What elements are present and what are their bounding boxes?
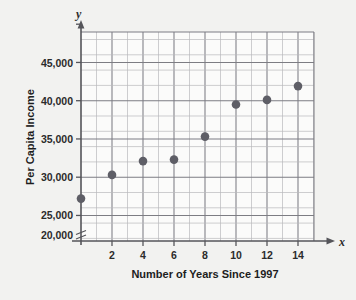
y-axis-symbol: y xyxy=(74,7,82,21)
y-tick-labels: 45,000 40,000 35,000 30,000 25,000 20,00… xyxy=(41,57,73,241)
data-point xyxy=(108,171,117,180)
y-tick-label: 30,000 xyxy=(41,171,73,183)
x-tick-label: 4 xyxy=(140,249,146,261)
x-axis-symbol: x xyxy=(338,235,345,249)
y-tick-label: 45,000 xyxy=(41,57,73,69)
y-tick-label: 40,000 xyxy=(41,95,73,107)
data-point xyxy=(170,155,179,164)
x-tick-label: 10 xyxy=(230,249,242,261)
data-point xyxy=(77,194,86,203)
data-point xyxy=(139,157,148,166)
x-tick-label: 2 xyxy=(109,249,115,261)
plot-area-background xyxy=(81,32,314,241)
data-point xyxy=(232,100,241,109)
x-tick-label: 8 xyxy=(202,249,208,261)
y-tick-label: 25,000 xyxy=(41,209,73,221)
x-axis-title: Number of Years Since 1997 xyxy=(131,268,278,280)
chart-canvas: 45,000 40,000 35,000 30,000 25,000 20,00… xyxy=(0,0,356,300)
data-point xyxy=(263,96,272,105)
y-tick-label: 35,000 xyxy=(41,133,73,145)
data-point xyxy=(294,82,303,91)
x-tick-labels: 2 4 6 8 10 12 14 xyxy=(109,249,304,261)
x-axis-arrowhead xyxy=(327,238,336,245)
data-point xyxy=(201,132,210,141)
x-tick-label: 12 xyxy=(261,249,273,261)
y-tick-label: 20,000 xyxy=(41,229,73,241)
scatter-plot-figure: 45,000 40,000 35,000 30,000 25,000 20,00… xyxy=(0,0,356,300)
x-tick-label: 14 xyxy=(292,249,304,261)
y-axis-title: Per Capita Income xyxy=(24,89,36,185)
x-tick-label: 6 xyxy=(171,249,177,261)
